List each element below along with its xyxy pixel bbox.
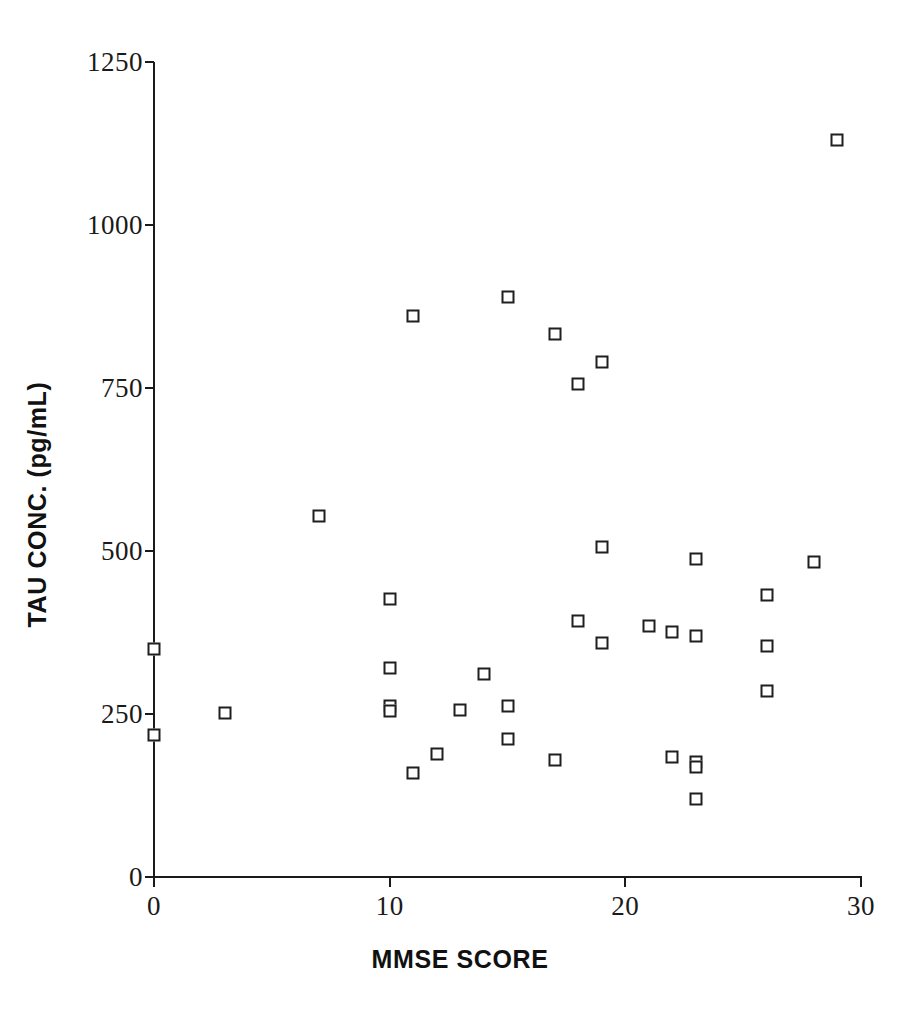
data-point-marker — [642, 619, 655, 632]
data-point-marker — [407, 766, 420, 779]
x-tick-mark — [153, 878, 155, 887]
data-point-marker — [595, 355, 608, 368]
data-point-marker — [572, 614, 585, 627]
x-axis-title: MMSE SCORE — [0, 945, 920, 974]
data-point-marker — [666, 625, 679, 638]
y-axis-line — [153, 62, 155, 878]
x-tick-mark — [860, 878, 862, 887]
y-tick-mark — [145, 387, 154, 389]
y-tick-mark — [145, 550, 154, 552]
x-tick-label: 20 — [611, 891, 639, 922]
y-axis-title-text: TAU CONC. (pg/mL) — [24, 382, 53, 628]
x-tick-mark — [624, 878, 626, 887]
data-point-marker — [477, 667, 490, 680]
y-tick-label: 250 — [101, 699, 143, 730]
data-point-marker — [807, 556, 820, 569]
scatter-plot-figure: TAU CONC. (pg/mL) 025050075010001250 010… — [0, 0, 920, 1009]
y-tick-label: 0 — [129, 862, 143, 893]
data-point-marker — [501, 699, 514, 712]
data-point-marker — [148, 642, 161, 655]
data-point-marker — [595, 636, 608, 649]
x-tick-label: 30 — [847, 891, 875, 922]
x-tick-mark — [389, 878, 391, 887]
data-point-marker — [760, 639, 773, 652]
data-point-marker — [407, 310, 420, 323]
x-axis-line — [153, 876, 862, 878]
data-point-marker — [454, 704, 467, 717]
data-point-marker — [690, 553, 703, 566]
x-tick-label: 10 — [376, 891, 404, 922]
y-tick-mark — [145, 713, 154, 715]
data-point-marker — [312, 510, 325, 523]
x-tick-label: 0 — [147, 891, 161, 922]
y-tick-label: 1000 — [87, 210, 143, 241]
y-axis-title: TAU CONC. (pg/mL) — [16, 0, 60, 1009]
data-point-marker — [501, 733, 514, 746]
data-point-marker — [690, 792, 703, 805]
data-point-marker — [831, 134, 844, 147]
data-point-marker — [383, 705, 396, 718]
data-point-marker — [430, 748, 443, 761]
data-point-marker — [218, 706, 231, 719]
data-point-marker — [760, 589, 773, 602]
y-tick-mark — [145, 61, 154, 63]
data-point-marker — [148, 728, 161, 741]
data-point-marker — [690, 630, 703, 643]
data-point-marker — [595, 541, 608, 554]
data-point-marker — [760, 684, 773, 697]
y-tick-label: 500 — [101, 536, 143, 567]
y-tick-mark — [145, 224, 154, 226]
data-point-marker — [501, 290, 514, 303]
data-point-marker — [548, 753, 561, 766]
data-point-marker — [383, 592, 396, 605]
data-point-marker — [548, 327, 561, 340]
data-point-marker — [690, 761, 703, 774]
data-point-marker — [572, 378, 585, 391]
y-tick-label: 1250 — [87, 47, 143, 78]
data-point-marker — [666, 751, 679, 764]
y-tick-label: 750 — [101, 373, 143, 404]
plot-area: 025050075010001250 0102030 — [154, 62, 861, 877]
data-point-marker — [383, 662, 396, 675]
